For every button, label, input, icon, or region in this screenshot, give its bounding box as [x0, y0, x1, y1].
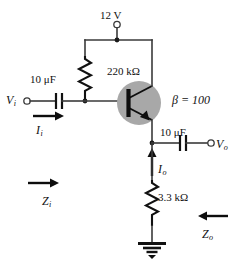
input-impedance-base: Z: [42, 194, 49, 208]
supply-terminal-node[interactable]: [114, 21, 120, 27]
supply-voltage-label: 12 V: [100, 10, 122, 21]
input-current-sub: i: [40, 129, 42, 138]
circuit-schematic: 12 V 220 kΩ 10 μF Vi Ii β = 100 10 μF Vo…: [0, 0, 237, 266]
transistor-halo: [117, 81, 161, 125]
output-terminal-node[interactable]: [208, 140, 214, 146]
ground-tip: [148, 255, 156, 259]
input-voltage-sub: i: [14, 99, 16, 108]
emitter-resistor-label: 3.3 kΩ: [158, 192, 188, 203]
output-current-sub: o: [162, 168, 166, 177]
output-capacitor-label: 10 μF: [160, 127, 186, 138]
output-voltage-base: V: [216, 137, 223, 151]
output-impedance-base: Z: [202, 227, 209, 241]
output-voltage-sub: o: [224, 143, 228, 152]
resistor-re-symbol: [146, 180, 158, 226]
input-voltage-label: Vi: [6, 94, 16, 108]
output-impedance-sub: o: [209, 233, 213, 242]
junction-dot-supply: [115, 38, 120, 43]
input-voltage-base: V: [6, 93, 13, 107]
input-current-label: Ii: [36, 124, 43, 138]
input-terminal-node[interactable]: [24, 98, 30, 104]
beta-label: β = 100: [172, 94, 210, 106]
base-resistor-label: 220 kΩ: [107, 66, 140, 77]
output-impedance-label: Zo: [202, 228, 213, 242]
input-capacitor-label: 10 μF: [30, 74, 56, 85]
output-voltage-label: Vo: [216, 138, 228, 152]
impedance-zi-arrow-head: [50, 179, 59, 188]
current-ii-arrow-head: [55, 112, 64, 121]
output-current-label: Io: [158, 163, 166, 177]
resistor-rb-symbol: [79, 56, 91, 101]
input-impedance-label: Zi: [42, 195, 51, 209]
impedance-zo-arrow-head: [198, 212, 207, 221]
input-impedance-sub: i: [49, 200, 51, 209]
